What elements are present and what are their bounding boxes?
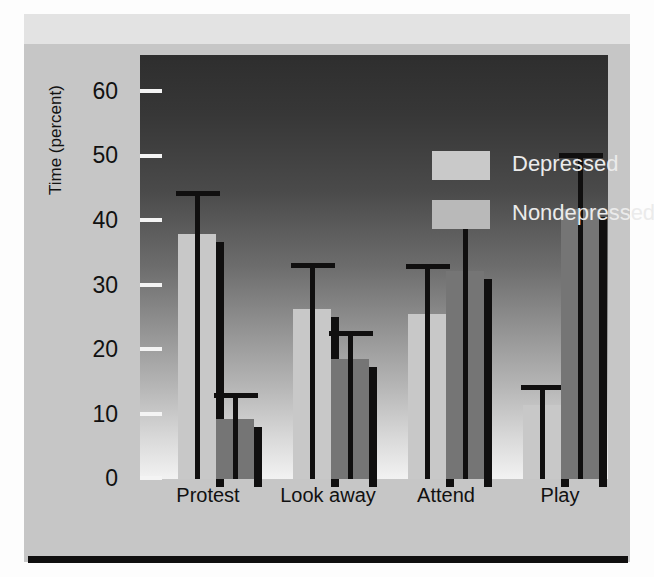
y-tick-label-10: 10 [62, 401, 118, 428]
legend-label-nondepressed: Nondepressed [512, 200, 654, 226]
error-bar-cap [291, 263, 335, 268]
legend-swatch-nondepressed-icon [432, 200, 490, 229]
error-bar-stem [463, 219, 468, 479]
bar-shadow [599, 217, 607, 487]
y-tick-label-0: 0 [62, 465, 118, 492]
chart-screenshot: 60 50 40 30 20 10 0 Time (percent) [0, 0, 654, 577]
y-tick-label-30: 30 [62, 272, 118, 299]
bottom-divider-rule [28, 556, 628, 563]
legend-swatch-body [432, 151, 490, 180]
error-bar-stem [425, 264, 430, 479]
y-tick-label-20: 20 [62, 336, 118, 363]
x-tick-label-look-away: Look away [258, 484, 398, 507]
y-tick-20 [140, 347, 162, 351]
error-bar-stem [540, 385, 545, 479]
legend-swatch-body [432, 200, 490, 229]
error-bar-cap [521, 385, 565, 390]
error-bar-cap [406, 264, 450, 269]
y-tick-label-40: 40 [62, 207, 118, 234]
y-tick-40 [140, 218, 162, 222]
x-tick-label-play: Play [500, 484, 620, 507]
y-tick-30 [140, 283, 162, 287]
y-tick-0 [140, 476, 162, 480]
error-bar-stem [348, 331, 353, 479]
bar-shadow [254, 427, 262, 487]
y-tick-10 [140, 412, 162, 416]
error-bar-cap [176, 191, 220, 196]
y-tick-60 [140, 89, 162, 93]
y-tick-label-60: 60 [62, 78, 118, 105]
legend-label-depressed: Depressed [512, 151, 618, 177]
error-bar-stem [310, 263, 315, 479]
plot-area: Depressed Nondepressed [140, 55, 608, 479]
x-tick-label-attend: Attend [386, 484, 506, 507]
y-axis-title: Time (percent) [46, 85, 66, 195]
error-bar-cap [214, 393, 258, 398]
bar-shadow [484, 279, 492, 487]
error-bar-stem [195, 191, 200, 479]
x-tick-label-protest: Protest [148, 484, 268, 507]
y-tick-50 [140, 154, 162, 158]
error-bar-stem [233, 393, 238, 479]
legend-swatch-depressed-icon [432, 151, 490, 180]
bar-shadow [369, 367, 377, 487]
error-bar-cap [329, 331, 373, 336]
y-tick-label-50: 50 [62, 142, 118, 169]
